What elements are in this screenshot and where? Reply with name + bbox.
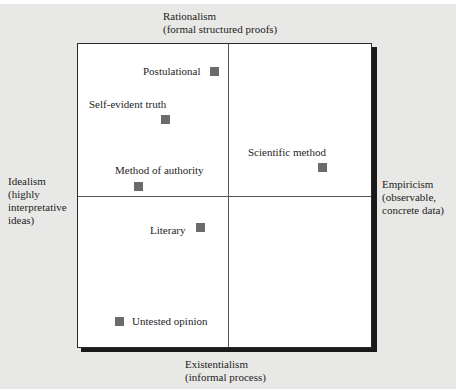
axis-top-title: Rationalism <box>163 10 277 23</box>
point-label-untested-opinion: Untested opinion <box>132 315 207 328</box>
quadrant-box: Postulational Self-evident truth Method … <box>77 43 372 348</box>
axis-right-subtitle-2: concrete data) <box>382 204 444 217</box>
axis-label-right: Empiricism (observable, concrete data) <box>382 178 444 217</box>
axis-top-subtitle: (formal structured proofs) <box>163 23 277 36</box>
axis-left-subtitle-1: (highly <box>8 188 67 201</box>
point-marker-method-of-authority <box>134 182 143 191</box>
axis-label-bottom: Existentialism (informal process) <box>185 358 266 384</box>
axis-bottom-title: Existentialism <box>185 358 266 371</box>
point-marker-self-evident-truth <box>161 115 170 124</box>
point-label-self-evident-truth: Self-evident truth <box>89 98 166 111</box>
axis-bottom-subtitle: (informal process) <box>185 371 266 384</box>
point-label-literary: Literary <box>150 224 185 237</box>
axis-right-title: Empiricism <box>382 178 444 191</box>
point-marker-untested-opinion <box>115 317 124 326</box>
point-label-postulational: Postulational <box>143 65 200 78</box>
axis-left-title: Idealism <box>8 175 67 188</box>
point-label-method-of-authority: Method of authority <box>115 164 204 177</box>
point-label-scientific-method: Scientific method <box>248 146 326 159</box>
point-marker-postulational <box>210 67 219 76</box>
axis-label-top: Rationalism (formal structured proofs) <box>163 10 277 36</box>
axis-left-subtitle-2: interpretative <box>8 201 67 214</box>
point-marker-literary <box>196 223 205 232</box>
axis-left-subtitle-3: ideas) <box>8 214 67 227</box>
axis-right-subtitle-1: (observable, <box>382 191 444 204</box>
axis-label-left: Idealism (highly interpretative ideas) <box>8 175 67 227</box>
horizontal-divider <box>78 196 371 197</box>
point-marker-scientific-method <box>318 163 327 172</box>
